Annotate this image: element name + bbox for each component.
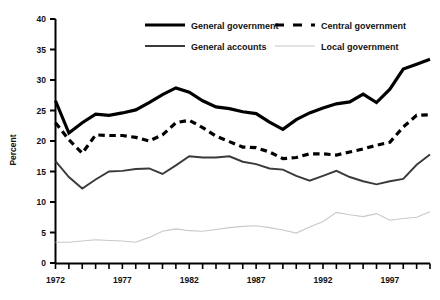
y-axis-title: Percent <box>8 134 18 165</box>
y-tick-label: 30 <box>37 75 47 85</box>
chart-container: 0510152025303540 19721977198219871992199… <box>0 0 440 300</box>
y-tick-label: 0 <box>41 258 46 268</box>
legend-label: General government <box>191 21 279 31</box>
y-tick-label: 5 <box>41 228 46 238</box>
legend-label: Local government <box>321 42 399 52</box>
x-tick-label: 1977 <box>113 275 132 285</box>
y-tick-label: 35 <box>37 45 47 55</box>
y-tick-label: 10 <box>37 197 47 207</box>
x-tick-label: 1987 <box>247 275 266 285</box>
x-tick-label: 1972 <box>46 275 65 285</box>
line-chart: 0510152025303540 19721977198219871992199… <box>0 0 440 300</box>
x-tick-label: 1982 <box>180 275 199 285</box>
y-tick-label: 25 <box>37 106 47 116</box>
y-tick-label: 15 <box>37 167 47 177</box>
x-tick-label: 1992 <box>314 275 333 285</box>
y-tick-label: 40 <box>37 14 47 24</box>
y-tick-label: 20 <box>37 136 47 146</box>
legend-label: General accounts <box>191 42 267 52</box>
legend-label: Central government <box>321 21 406 31</box>
x-tick-label: 1997 <box>380 275 399 285</box>
